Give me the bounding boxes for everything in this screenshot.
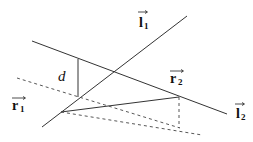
label-r2-sub: 2 — [178, 77, 183, 87]
label-l1: l 1 — [138, 11, 149, 32]
label-l2-base: l — [236, 106, 240, 121]
projection-upper-dashed — [17, 78, 180, 128]
label-l1-base: l — [139, 15, 143, 30]
projection-lower-dashed — [61, 112, 202, 135]
label-l2-sub: 2 — [241, 112, 246, 122]
label-l1-sub: 1 — [144, 21, 149, 31]
label-r1: r 1 — [12, 97, 26, 115]
label-r1-sub: 1 — [20, 104, 25, 114]
label-r2: r 2 — [170, 70, 184, 88]
label-r1-base: r — [12, 98, 18, 113]
label-l2: l 2 — [235, 103, 246, 123]
label-r2-base: r — [170, 71, 176, 86]
diagram-canvas: l 1 l 2 r 1 r 2 d — [0, 0, 253, 142]
label-d: d — [58, 68, 66, 84]
